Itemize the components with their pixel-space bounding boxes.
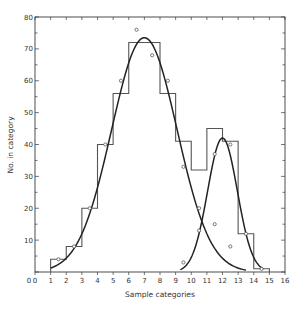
- x-tick-label: 3: [80, 277, 84, 285]
- chart: 012345678910111213141516 010203040506070…: [0, 0, 301, 311]
- fitted-curve-2: [180, 138, 263, 270]
- y-tick-label: 80: [24, 14, 33, 22]
- data-point: [197, 229, 200, 232]
- fitted-curves: [51, 38, 264, 270]
- y-tick-label: 50: [24, 109, 33, 117]
- x-axis-label: Sample categories: [125, 290, 195, 299]
- x-tick-label: 4: [95, 277, 100, 285]
- y-axis-label: No. in category: [6, 116, 15, 174]
- y-tick-label: 60: [24, 77, 33, 85]
- data-point: [88, 207, 91, 210]
- data-point: [182, 261, 185, 264]
- data-point: [57, 258, 60, 261]
- x-tick-label: 8: [158, 277, 162, 285]
- x-tick-label: 0: [33, 277, 37, 285]
- y-axis-ticks: 01020304050607080: [24, 14, 285, 286]
- histogram-bars: [51, 43, 270, 273]
- x-tick-label: 5: [111, 277, 115, 285]
- x-tick-label: 10: [187, 277, 196, 285]
- data-point: [151, 54, 154, 57]
- data-point: [104, 143, 107, 146]
- x-tick-label: 9: [173, 277, 177, 285]
- x-tick-label: 11: [202, 277, 211, 285]
- data-point: [229, 245, 232, 248]
- data-point: [213, 223, 216, 226]
- y-tick-label: 30: [24, 173, 33, 181]
- x-tick-label: 6: [127, 277, 132, 285]
- x-tick-label: 1: [48, 277, 52, 285]
- data-point: [182, 165, 185, 168]
- x-tick-label: 7: [142, 277, 146, 285]
- x-tick-label: 12: [218, 277, 227, 285]
- data-point: [119, 79, 122, 82]
- data-point: [72, 245, 75, 248]
- x-tick-label: 14: [249, 277, 258, 285]
- x-tick-label: 13: [234, 277, 243, 285]
- data-point: [135, 28, 138, 31]
- data-point: [213, 152, 216, 155]
- y-tick-label: 0: [27, 277, 31, 285]
- data-point: [166, 79, 169, 82]
- x-tick-label: 2: [64, 277, 68, 285]
- data-point: [229, 143, 232, 146]
- x-axis-ticks: 012345678910111213141516: [33, 17, 290, 285]
- data-point: [244, 232, 247, 235]
- x-tick-label: 16: [281, 277, 290, 285]
- histogram-outline: [51, 43, 270, 273]
- y-tick-label: 20: [24, 205, 33, 213]
- y-tick-label: 70: [24, 45, 33, 53]
- x-tick-label: 15: [265, 277, 274, 285]
- data-point: [197, 207, 200, 210]
- y-tick-label: 10: [24, 237, 33, 245]
- y-tick-label: 40: [24, 141, 33, 149]
- data-point: [260, 267, 263, 270]
- fitted-curve-1: [51, 38, 246, 270]
